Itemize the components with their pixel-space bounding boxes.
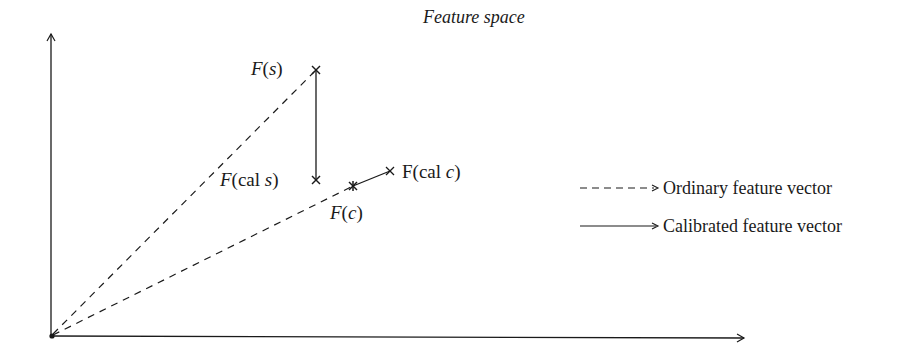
legend-item-calibrated: Calibrated feature vector [663,217,842,235]
label-fcals-f: F [220,169,232,190]
diagram-title: Feature space [423,8,525,26]
calibration-vector-c [353,171,390,186]
ordinary-vector-s [53,72,314,334]
x-axis [51,336,744,338]
label-fs: F(s) [251,59,283,78]
label-fs-close: ) [276,58,282,79]
label-fc-close: ) [356,202,362,223]
label-fs-f: F [251,58,263,79]
label-fcals: F(cal s) [220,170,279,189]
legend-item-ordinary: Ordinary feature vector [663,179,832,197]
label-fcalc-var: c [446,161,454,182]
label-fcalc: F(cal c) [402,162,461,181]
cross-marker-fcalc [386,167,394,175]
ordinary-vector-c [53,187,351,335]
label-fc: F(c) [330,203,363,222]
label-fc-f: F [330,202,342,223]
label-fcals-open: (cal [232,169,265,190]
star-marker-fc [349,181,357,191]
label-fcals-close: ) [272,169,278,190]
label-fcalc-close: ) [454,161,460,182]
label-fcalc-prefix: F(cal [402,161,446,182]
